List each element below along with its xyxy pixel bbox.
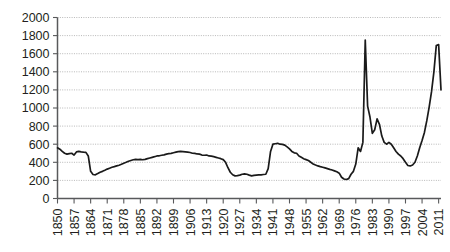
x-tick-label: 1997 (399, 208, 413, 236)
y-tick-label: 400 (29, 156, 50, 170)
x-tick-label: 1934 (250, 208, 264, 236)
x-tick-label: 1892 (150, 208, 164, 236)
y-tick-label: 1600 (22, 47, 50, 61)
y-axis (53, 18, 58, 199)
gridlines (58, 18, 442, 181)
x-tick-label: 2004 (416, 208, 430, 236)
x-tick-labels: 1850185718641871187818851892189919061913… (51, 208, 446, 236)
x-tick-label: 1878 (117, 208, 131, 236)
x-tick-label: 1899 (167, 208, 181, 236)
x-tick-label: 1920 (217, 208, 231, 236)
x-tick-label: 1885 (134, 208, 148, 236)
x-tick-label: 2011 (432, 208, 446, 235)
x-tick-label: 1983 (366, 208, 380, 236)
series-line (58, 40, 442, 179)
x-tick-label: 1948 (283, 208, 297, 236)
x-tick-label: 1864 (84, 208, 98, 236)
line-chart: 0200400600800100012001400160018002000 18… (0, 0, 450, 252)
y-tick-label: 1000 (22, 101, 50, 115)
x-tick-label: 1871 (101, 208, 115, 236)
x-tick-label: 1962 (316, 208, 330, 236)
y-tick-label: 200 (29, 174, 50, 188)
x-tick-label: 1976 (349, 208, 363, 236)
y-tick-label: 2000 (22, 11, 50, 25)
y-tick-label: 1200 (22, 83, 50, 97)
chart-canvas: 0200400600800100012001400160018002000 18… (0, 0, 450, 252)
x-tick-label: 1906 (184, 208, 198, 236)
y-tick-label: 0 (43, 192, 50, 206)
data-series (58, 40, 442, 179)
x-tick-label: 1913 (200, 208, 214, 236)
x-tick-label: 1990 (382, 208, 396, 236)
x-tick-label: 1955 (300, 208, 314, 236)
x-tick-label: 1857 (68, 208, 82, 236)
y-tick-label: 1400 (22, 65, 50, 79)
y-tick-labels: 0200400600800100012001400160018002000 (22, 11, 50, 206)
y-tick-label: 600 (29, 138, 50, 152)
x-axis (58, 199, 442, 204)
x-tick-label: 1969 (333, 208, 347, 236)
y-tick-label: 1800 (22, 29, 50, 43)
y-tick-label: 800 (29, 120, 50, 134)
x-tick-label: 1927 (233, 208, 247, 236)
x-tick-label: 1850 (51, 208, 65, 236)
x-tick-label: 1941 (266, 208, 280, 236)
